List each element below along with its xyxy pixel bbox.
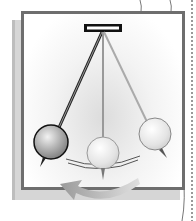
pendulum-drawing bbox=[0, 0, 196, 221]
ghost-string-right bbox=[104, 32, 149, 126]
pendulum-bob-right bbox=[139, 118, 171, 158]
swing-direction-arrow-icon bbox=[60, 178, 140, 200]
pendulum-bob-center bbox=[87, 137, 119, 180]
pendulum-bob-active bbox=[34, 125, 68, 167]
mount-bar bbox=[84, 24, 122, 32]
